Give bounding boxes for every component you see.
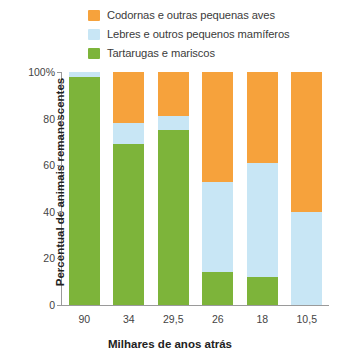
bar-stack xyxy=(158,72,189,305)
legend-swatch-turtles xyxy=(88,48,100,59)
y-tick-label: 40 xyxy=(43,206,55,218)
legend-swatch-mammals xyxy=(88,29,100,40)
bar-segment xyxy=(158,72,189,116)
bar-segment xyxy=(202,272,233,305)
bar-segment xyxy=(291,72,322,212)
legend-item-mammals: Lebres e outros pequenos mamíferos xyxy=(88,25,338,43)
x-tick-label: 34 xyxy=(123,313,135,325)
bar-segment xyxy=(158,116,189,130)
y-tick-label: 0 xyxy=(49,299,55,311)
legend-item-birds: Codornas e outras pequenas aves xyxy=(88,6,338,24)
x-tick-label: 26 xyxy=(212,313,224,325)
bar-stack xyxy=(69,72,100,305)
x-tick-label: 29,5 xyxy=(163,313,183,325)
y-tick-mark xyxy=(57,72,62,73)
bar-stack xyxy=(202,72,233,305)
legend-label-birds: Codornas e outras pequenas aves xyxy=(107,9,275,21)
bar-stack xyxy=(247,72,278,305)
bar-segment xyxy=(202,72,233,182)
y-tick-mark xyxy=(57,165,62,166)
legend-label-mammals: Lebres e outros pequenos mamíferos xyxy=(107,28,290,40)
y-tick-label: 80 xyxy=(43,113,55,125)
bar-segment xyxy=(202,182,233,273)
chart-plot-area: 020406080100% xyxy=(62,72,329,305)
legend-swatch-birds xyxy=(88,10,100,21)
bar-stack xyxy=(113,72,144,305)
bar-segment xyxy=(69,77,100,305)
bar-segment xyxy=(247,163,278,277)
x-tick-label: 90 xyxy=(78,313,90,325)
bar-segment xyxy=(247,72,278,163)
chart-legend: Codornas e outras pequenas aves Lebres e… xyxy=(88,6,338,63)
y-tick-mark xyxy=(57,258,62,259)
y-tick-label: 100% xyxy=(28,66,55,78)
x-axis-line xyxy=(61,305,329,306)
y-tick-label: 60 xyxy=(43,159,55,171)
y-tick-label: 20 xyxy=(43,252,55,264)
bar-stack xyxy=(291,72,322,305)
y-tick-mark xyxy=(57,212,62,213)
y-tick-mark xyxy=(57,305,62,306)
legend-label-turtles: Tartarugas e mariscos xyxy=(107,47,215,59)
bar-segment xyxy=(158,130,189,305)
legend-item-turtles: Tartarugas e mariscos xyxy=(88,44,338,62)
x-tick-label: 10,5 xyxy=(297,313,317,325)
bar-segment xyxy=(291,212,322,305)
y-tick-mark xyxy=(57,119,62,120)
bar-segment xyxy=(113,123,144,144)
bar-segment xyxy=(113,144,144,305)
x-axis-title: Milhares de anos atrás xyxy=(0,338,340,350)
bar-segment xyxy=(247,277,278,305)
bar-segment xyxy=(113,72,144,123)
x-tick-label: 18 xyxy=(256,313,268,325)
